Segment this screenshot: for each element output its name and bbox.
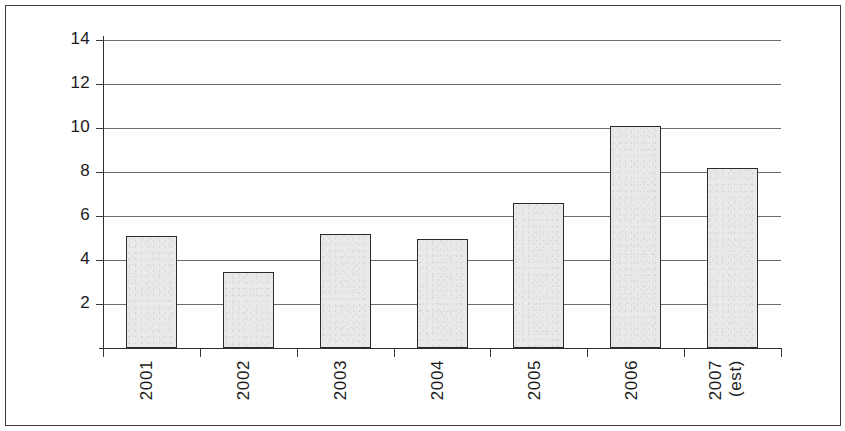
y-axis-tick-label: 14 [50, 29, 90, 49]
x-axis-label-note: (est) [727, 360, 744, 397]
x-axis-tick [587, 348, 588, 357]
x-axis-label-year: 2005 [526, 360, 543, 400]
bar-2003 [320, 234, 371, 348]
x-axis-tick [684, 348, 685, 357]
gridline-12 [103, 84, 781, 85]
y-axis-tick-label: 4 [50, 249, 90, 269]
y-axis-tick [96, 84, 104, 85]
x-axis-label-2005: 2005 [526, 360, 552, 426]
y-axis-tick-label: 10 [50, 117, 90, 137]
bar-2002 [223, 272, 274, 348]
x-axis-label-2003: 2003 [332, 360, 358, 426]
y-axis-tick [96, 260, 104, 261]
y-axis-tick-label: 12 [50, 73, 90, 93]
x-axis-label-year: 2002 [235, 360, 252, 400]
gridline-10 [103, 128, 781, 129]
y-axis-tick [96, 40, 104, 41]
x-axis-label-year: 2007 [707, 360, 724, 400]
y-axis-tick [96, 216, 104, 217]
y-axis-tick [96, 304, 104, 305]
x-axis-tick [490, 348, 491, 357]
x-axis-tick [200, 348, 201, 357]
x-axis-label-2002: 2002 [235, 360, 261, 426]
x-axis-label-2004: 2004 [429, 360, 455, 426]
x-axis-label-year: 2004 [429, 360, 446, 400]
bar-2004 [417, 239, 468, 348]
gridline-8 [103, 172, 781, 173]
bar-2005 [513, 203, 564, 348]
x-axis-label-2001: 2001 [138, 360, 164, 426]
x-axis-label-2006: 2006 [623, 360, 649, 426]
x-axis-label-year: 2003 [332, 360, 349, 400]
y-axis-tick-label: 2 [50, 293, 90, 313]
x-axis-tick [297, 348, 298, 357]
bar-2001 [126, 236, 177, 348]
gridline-14 [103, 40, 781, 41]
bar-chart: 2468101214 2001200220032004200520062007(… [0, 0, 845, 431]
x-axis-tick [781, 348, 782, 357]
y-axis-tick [96, 172, 104, 173]
y-axis-tick-label: 8 [50, 161, 90, 181]
x-axis-label-2007: 2007(est) [707, 360, 759, 426]
x-axis-label-year: 2006 [623, 360, 640, 400]
bar-2007 [707, 168, 758, 348]
y-axis-tick [96, 128, 104, 129]
chart-screenshot: 2468101214 2001200220032004200520062007(… [0, 0, 845, 431]
y-axis-tick-label: 6 [50, 205, 90, 225]
x-axis-tick [103, 348, 104, 357]
bar-2006 [610, 126, 661, 348]
x-axis-tick [394, 348, 395, 357]
x-axis-line [99, 348, 781, 349]
x-axis-label-year: 2001 [138, 360, 155, 400]
gridline-6 [103, 216, 781, 217]
